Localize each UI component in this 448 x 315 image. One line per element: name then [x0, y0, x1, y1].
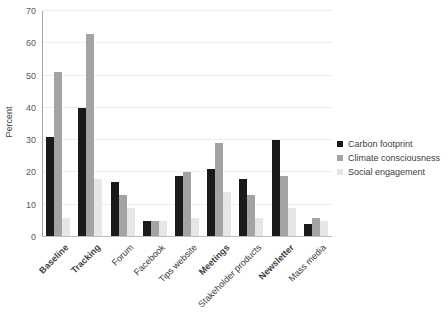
bar-stakeholder-products-social-engagement [255, 218, 263, 237]
legend-label-social-engagement: Social engagement [348, 167, 425, 177]
bar-facebook-climate-consciousness [151, 221, 159, 237]
bar-meetings-climate-consciousness [215, 143, 223, 237]
y-tick-label-40: 40 [26, 103, 36, 112]
x-category-label-forum: Forum [110, 243, 135, 268]
bar-tracking-social-engagement [94, 179, 102, 237]
plot-area: 010203040506070 BaselineTrackingForumFac… [42, 11, 332, 237]
bar-stakeholder-products-climate-consciousness [247, 195, 255, 237]
x-category-label-stakeholder-products: Stakeholder products [197, 243, 264, 310]
bar-baseline-carbon-footprint [46, 137, 54, 237]
bar-newsletter-social-engagement [288, 208, 296, 237]
bar-forum-social-engagement [127, 208, 135, 237]
y-tick-label-70: 70 [26, 7, 36, 16]
bar-stakeholder-products-carbon-footprint [239, 179, 247, 237]
bar-newsletter-climate-consciousness [280, 176, 288, 237]
legend-swatch-climate-consciousness [337, 155, 343, 161]
bar-newsletter-carbon-footprint [272, 140, 280, 237]
x-category-label-baseline: Baseline [38, 243, 71, 276]
bar-baseline-climate-consciousness [54, 72, 62, 237]
y-tick-label-60: 60 [26, 39, 36, 48]
bar-mass-media-social-engagement [320, 221, 328, 237]
y-tick-label-0: 0 [31, 233, 36, 242]
y-axis-title: Percent [4, 106, 14, 137]
legend-item-carbon-footprint: Carbon footprint [337, 137, 440, 151]
legend: Carbon footprint Climate consciousness S… [337, 137, 440, 179]
bar-meetings-carbon-footprint [207, 169, 215, 237]
y-tick-label-20: 20 [26, 168, 36, 177]
bar-tracking-climate-consciousness [86, 34, 94, 237]
bar-forum-climate-consciousness [119, 195, 127, 237]
legend-label-carbon-footprint: Carbon footprint [348, 139, 413, 149]
x-category-label-tracking: Tracking [70, 243, 103, 276]
bar-mass-media-climate-consciousness [312, 218, 320, 237]
y-tick-label-10: 10 [26, 200, 36, 209]
legend-label-climate-consciousness: Climate consciousness [348, 153, 440, 163]
bar-tracking-carbon-footprint [78, 108, 86, 237]
bar-facebook-social-engagement [159, 221, 167, 237]
y-tick-label-30: 30 [26, 136, 36, 145]
legend-item-social-engagement: Social engagement [337, 165, 440, 179]
bar-chart-figure: Percent 010203040506070 BaselineTracking… [0, 0, 448, 315]
y-tick-label-50: 50 [26, 71, 36, 80]
bar-facebook-carbon-footprint [143, 221, 151, 237]
bar-tips-website-social-engagement [191, 218, 199, 237]
legend-item-climate-consciousness: Climate consciousness [337, 151, 440, 165]
bar-tips-website-carbon-footprint [175, 176, 183, 237]
bar-forum-carbon-footprint [111, 182, 119, 237]
legend-swatch-carbon-footprint [337, 141, 343, 147]
x-axis-category-labels: BaselineTrackingForumFacebookTips websit… [42, 237, 332, 307]
legend-swatch-social-engagement [337, 169, 343, 175]
bars-layer [42, 11, 332, 237]
bar-meetings-social-engagement [223, 192, 231, 237]
bar-tips-website-climate-consciousness [183, 172, 191, 237]
bar-baseline-social-engagement [62, 218, 70, 237]
y-axis-line [42, 11, 43, 237]
